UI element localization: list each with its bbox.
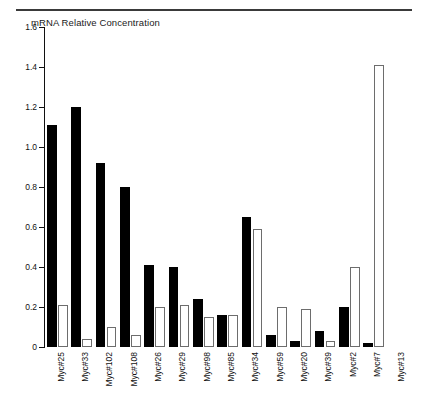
bar-filled [96,163,106,347]
x-axis-tick-label: Myc#29 [177,352,187,382]
bar-filled [193,299,203,347]
bar-open [82,339,92,347]
x-axis-tick-label: Myc#34 [250,352,260,382]
bar-group [339,27,363,347]
x-axis-tick-label: Myc#25 [56,352,66,382]
bar-plot-area [46,27,411,347]
bar-group [120,27,144,347]
bar-filled [266,335,276,347]
bar-open [204,317,214,347]
y-axis-labels: 00.20.40.60.81.01.21.41.6 [0,0,37,400]
bar-open [326,341,336,347]
y-axis-tick-label: 1.6 [25,22,37,32]
y-axis-tick-label: 1.2 [25,102,37,112]
bar-open [180,305,190,347]
bar-group [290,27,314,347]
x-axis-tick-label: Myc#85 [226,352,236,382]
x-axis-tick-label: Myc#108 [129,352,139,387]
x-axis-tick-label: Myc#7 [372,352,382,377]
bar-open [131,335,141,347]
x-axis-tick-label: Myc#59 [275,352,285,382]
y-axis-tick [39,187,44,188]
bar-group [71,27,95,347]
bar-group [193,27,217,347]
x-axis-tick-label: Myc#39 [323,352,333,382]
bar-filled [363,343,373,347]
y-axis-tick [39,347,44,348]
y-axis-tick [39,147,44,148]
bar-filled [217,315,227,347]
bar-group [169,27,193,347]
bar-open [277,307,287,347]
bar-filled [71,107,81,347]
header-rule [16,9,412,11]
x-axis-tick-label: Myc#26 [153,352,163,382]
bar-filled [339,307,349,347]
bar-open [107,327,117,347]
bar-filled [290,341,300,347]
bar-group [217,27,241,347]
bar-open [58,305,68,347]
y-axis-tick [39,307,44,308]
y-axis-line [44,27,45,348]
x-axis-tick-label: Myc#2 [348,352,358,377]
bar-group [315,27,339,347]
y-axis-tick [39,67,44,68]
bar-filled [315,331,325,347]
bar-filled [120,187,130,347]
bar-filled [169,267,179,347]
bar-group [96,27,120,347]
bar-open [301,309,311,347]
bar-open [155,307,165,347]
y-axis-tick-label: 0.8 [25,182,37,192]
bar-group [242,27,266,347]
bar-open [374,65,384,347]
bar-open [253,229,263,347]
x-axis-tick-label: Myc#33 [80,352,90,382]
y-axis-tick [39,27,44,28]
y-axis-tick-label: 1.4 [25,62,37,72]
y-axis-tick [39,107,44,108]
x-axis-tick-label: Myc#102 [104,352,114,387]
y-axis-tick [39,227,44,228]
bar-filled [144,265,154,347]
y-axis-tick [39,267,44,268]
y-axis-tick-label: 0 [32,342,37,352]
bar-group [363,27,387,347]
y-axis-tick-label: 0.6 [25,222,37,232]
bar-filled [47,125,57,347]
y-axis-tick-label: 1.0 [25,142,37,152]
x-axis-tick-label: Myc#13 [396,352,406,382]
bar-group [266,27,290,347]
x-axis-labels: Myc#25Myc#33Myc#102Myc#108Myc#26Myc#29My… [46,352,411,400]
bar-filled [242,217,252,347]
bar-group [47,27,71,347]
x-axis-tick-label: Myc#98 [202,352,212,382]
y-axis-tick-label: 0.2 [25,302,37,312]
y-axis-tick-label: 0.4 [25,262,37,272]
bar-open [350,267,360,347]
bar-open [228,315,238,347]
bar-group [388,27,412,347]
bar-group [144,27,168,347]
figure-container: mRNA Relative Concentration 00.20.40.60.… [0,0,427,400]
x-axis-tick-label: Myc#20 [299,352,309,382]
